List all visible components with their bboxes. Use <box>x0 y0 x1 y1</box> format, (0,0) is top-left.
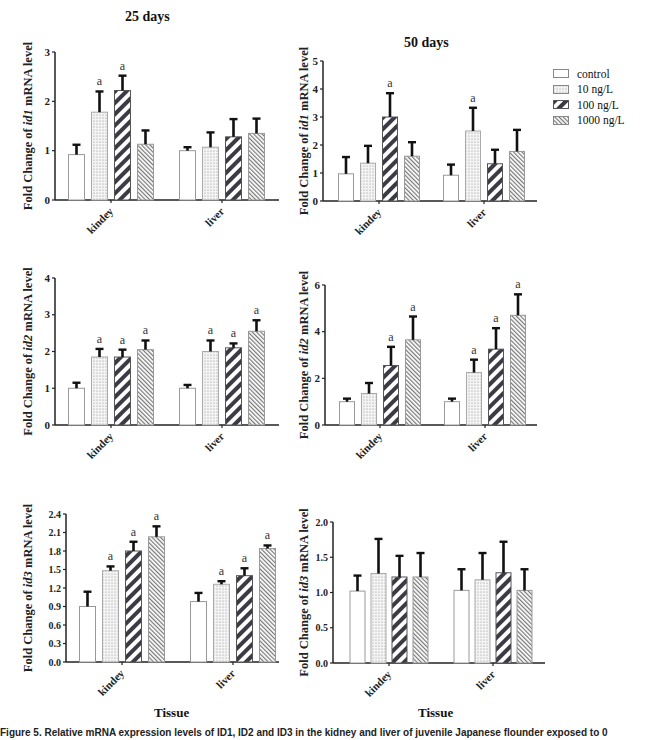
bar-100-ng-l <box>489 349 504 425</box>
bar-100-ng-l <box>384 366 399 426</box>
bar-100-ng-l <box>237 576 253 662</box>
y-tick-label: 0.5 <box>316 622 329 633</box>
bar-control <box>80 607 96 663</box>
bar-10-ng-l <box>203 352 219 426</box>
significance-marker: a <box>254 303 260 317</box>
y-tick-label: 0.0 <box>316 658 329 669</box>
y-axis-title: Fold Change of id2 mRNA level <box>21 267 35 436</box>
bar-control <box>69 155 85 200</box>
bar-10-ng-l <box>371 573 386 663</box>
bar-1000-ng-l <box>138 144 154 200</box>
y-axis-title: Fold Change of id2 mRNA level <box>297 270 311 439</box>
y-tick-label: 3 <box>45 46 51 58</box>
bar-10-ng-l <box>214 584 230 662</box>
bar-10-ng-l <box>92 112 108 200</box>
legend-item-100ng: 100 ng/L <box>553 97 625 113</box>
x-category-label: liver <box>466 430 490 454</box>
bar-control <box>339 174 354 201</box>
bar-100-ng-l <box>383 117 398 201</box>
y-tick-label: 1.8 <box>49 546 62 557</box>
y-tick-label: 4 <box>313 83 319 95</box>
bar-1000-ng-l <box>249 133 265 200</box>
y-tick-label: 0 <box>313 195 319 207</box>
bar-100-ng-l <box>115 90 131 200</box>
y-tick-label: 2.1 <box>49 527 62 538</box>
y-tick-label: 2.0 <box>316 517 329 528</box>
bar-10-ng-l <box>203 147 219 200</box>
bar-control <box>454 590 469 663</box>
bar-1000-ng-l <box>149 537 165 662</box>
y-tick-label: 1.0 <box>316 587 329 598</box>
bar-control <box>191 602 207 662</box>
bar-100-ng-l <box>226 137 242 200</box>
bar-10-ng-l <box>362 394 377 426</box>
y-tick-label: 2 <box>313 139 319 151</box>
chart-panel-id3-25d: 0.00.30.60.91.21.51.82.12.4Fold Change o… <box>21 503 279 698</box>
bar-control <box>340 402 355 425</box>
y-tick-label: 4 <box>315 325 321 337</box>
y-axis-title: Fold Change of id3 mRNA level <box>297 508 311 677</box>
significance-marker: a <box>120 333 126 347</box>
figure: 25 days 50 days 0123Fold Change of id1 m… <box>0 0 648 740</box>
y-tick-label: 1.5 <box>316 552 329 563</box>
y-tick-label: 0.9 <box>49 601 62 612</box>
bar-100-ng-l <box>126 551 142 662</box>
chart-panel-id1-50d: 012345Fold Change of id1 mRNA levelkinde… <box>297 46 537 237</box>
x-category-label: kindey <box>84 205 115 236</box>
significance-marker: a <box>410 300 416 314</box>
significance-marker: a <box>493 311 499 325</box>
swatch-wide-diagonal-icon <box>553 100 569 109</box>
bar-1000-ng-l <box>413 577 428 663</box>
significance-marker: a <box>154 509 160 523</box>
significance-marker: a <box>470 91 476 105</box>
bar-control <box>180 388 196 425</box>
x-axis-title-right: Tissue <box>418 705 453 721</box>
significance-marker: a <box>515 277 521 291</box>
significance-marker: a <box>219 564 225 578</box>
bar-100-ng-l <box>226 348 242 425</box>
x-axis-title-left: Tissue <box>154 705 189 721</box>
y-tick-label: 3 <box>45 308 51 320</box>
y-tick-label: 2.4 <box>49 509 62 520</box>
y-tick-label: 0.3 <box>49 638 62 649</box>
bar-100-ng-l <box>488 164 503 201</box>
bar-1000-ng-l <box>511 315 526 425</box>
significance-marker: a <box>131 525 137 539</box>
y-tick-label: 0.0 <box>49 657 62 668</box>
bar-control <box>444 175 459 201</box>
x-category-label: liver <box>214 667 238 691</box>
y-tick-label: 3 <box>313 111 319 123</box>
x-category-label: kindey <box>84 430 115 461</box>
y-axis-title: Fold Change of id1 mRNA level <box>297 46 311 215</box>
legend-label: 10 ng/L <box>577 83 613 95</box>
legend-label: 100 ng/L <box>577 99 619 111</box>
chart-panel-id2-50d: 0246Fold Change of id2 mRNA levelkindeya… <box>297 270 537 461</box>
y-tick-label: 2 <box>45 95 51 107</box>
x-category-label: kindey <box>95 667 126 698</box>
bar-control <box>350 591 365 663</box>
bar-100-ng-l <box>496 573 511 663</box>
x-category-label: liver <box>474 668 498 692</box>
legend-item-1000ng: 1000 ng/L <box>553 113 625 129</box>
bar-10-ng-l <box>467 373 482 426</box>
chart-grid: 0123Fold Change of id1 mRNA levelkindeya… <box>0 0 648 740</box>
y-tick-label: 1.5 <box>49 564 62 575</box>
bar-10-ng-l <box>103 571 119 662</box>
significance-marker: a <box>388 330 394 344</box>
chart-panel-id2-25d: 01234Fold Change of id2 mRNA levelkindey… <box>21 267 279 461</box>
y-tick-label: 0 <box>45 194 51 206</box>
bar-1000-ng-l <box>510 151 525 201</box>
bar-control <box>445 402 460 425</box>
y-tick-label: 1.2 <box>49 583 62 594</box>
bar-10-ng-l <box>92 357 108 425</box>
x-category-label: liver <box>203 205 227 229</box>
legend: control 10 ng/L 100 ng/L 1000 ng/L <box>553 66 625 128</box>
significance-marker: a <box>143 323 149 337</box>
significance-marker: a <box>108 549 114 563</box>
legend-label: 1000 ng/L <box>577 114 625 126</box>
y-tick-label: 0.6 <box>49 620 62 631</box>
bar-1000-ng-l <box>138 350 154 425</box>
significance-marker: a <box>231 326 237 340</box>
bar-1000-ng-l <box>406 340 421 425</box>
y-tick-label: 4 <box>45 272 51 284</box>
